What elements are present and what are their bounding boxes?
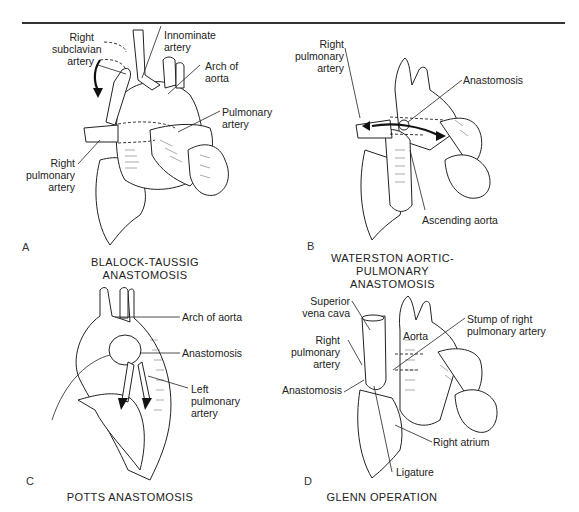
label-left-pulmonary-artery: Left pulmonary artery bbox=[191, 383, 240, 419]
label-anastomosis-b: Anastomosis bbox=[463, 74, 523, 86]
label-aorta-d: Aorta bbox=[403, 330, 428, 342]
label-line: subclavian bbox=[52, 43, 94, 55]
caption-line: WATERSTON AORTIC- bbox=[325, 252, 460, 265]
caption-glenn: GLENN OPERATION bbox=[322, 491, 442, 504]
label-right-atrium: Right atrium bbox=[433, 436, 490, 448]
label-line: Left bbox=[191, 383, 240, 395]
label-pulmonary-artery: Pulmonary artery bbox=[222, 106, 272, 130]
label-line: pulmonary bbox=[280, 346, 340, 358]
label-line: artery bbox=[164, 41, 216, 53]
label-superior-vena-cava: Superior vena cava bbox=[296, 295, 350, 319]
label-line: artery bbox=[290, 62, 344, 74]
label-right-pulmonary-artery-b: Right pulmonary artery bbox=[290, 38, 344, 74]
label-line: Arch of bbox=[205, 60, 238, 72]
label-line: artery bbox=[222, 118, 272, 130]
label-line: pulmonary bbox=[191, 395, 240, 407]
caption-line: PULMONARY ANASTOMOSIS bbox=[325, 265, 460, 291]
caption-waterston: WATERSTON AORTIC- PULMONARY ANASTOMOSIS bbox=[325, 252, 460, 291]
label-ligature: Ligature bbox=[396, 466, 434, 478]
label-line: Superior bbox=[296, 295, 350, 307]
panel-c-heart-drawing bbox=[52, 288, 188, 480]
label-innominate-artery: Innominate artery bbox=[164, 29, 216, 53]
label-line: Stump of right bbox=[467, 313, 546, 325]
label-right-subclavian-artery: Right subclavian artery bbox=[52, 31, 94, 67]
label-line: artery bbox=[52, 55, 94, 67]
caption-potts: POTTS ANASTOMOSIS bbox=[60, 491, 200, 504]
label-line: pulmonary bbox=[20, 169, 75, 181]
label-line: pulmonary bbox=[290, 50, 344, 62]
label-line: vena cava bbox=[296, 307, 350, 319]
panel-letter-d: D bbox=[304, 475, 312, 487]
panel-letter-b: B bbox=[307, 240, 314, 252]
label-line: artery bbox=[280, 358, 340, 370]
label-line: Right bbox=[290, 38, 344, 50]
panel-a-heart-drawing bbox=[78, 26, 228, 245]
label-arch-of-aorta: Arch of aorta bbox=[205, 60, 238, 84]
label-right-pulmonary-artery: Right pulmonary artery bbox=[20, 157, 75, 193]
panel-letter-c: C bbox=[26, 475, 34, 487]
label-line: Right bbox=[20, 157, 75, 169]
caption-blalock-taussig: BLALOCK-TAUSSIG ANASTOMOSIS bbox=[55, 256, 235, 282]
label-line: artery bbox=[191, 407, 240, 419]
label-right-pulmonary-artery-d: Right pulmonary artery bbox=[280, 334, 340, 370]
label-line: pulmonary artery bbox=[467, 325, 546, 337]
label-anastomosis-d: Anastomosis bbox=[276, 384, 342, 396]
label-line: Right bbox=[52, 31, 94, 43]
label-line: artery bbox=[20, 181, 75, 193]
label-ascending-aorta: Ascending aorta bbox=[422, 214, 498, 226]
label-arch-of-aorta-c: Arch of aorta bbox=[182, 311, 242, 323]
label-line: Innominate bbox=[164, 29, 216, 41]
label-line: aorta bbox=[205, 72, 238, 84]
panel-letter-a: A bbox=[22, 241, 29, 253]
label-line: Right bbox=[280, 334, 340, 346]
label-stump-right-pulmonary: Stump of right pulmonary artery bbox=[467, 313, 546, 337]
label-line: Pulmonary bbox=[222, 106, 272, 118]
label-anastomosis-c: Anastomosis bbox=[182, 347, 242, 359]
